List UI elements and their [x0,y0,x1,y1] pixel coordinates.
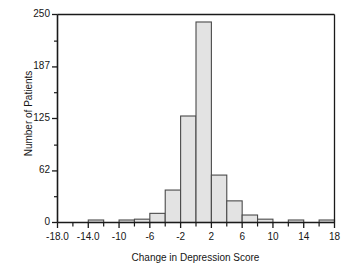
histogram-bar [242,215,257,222]
bars-group [88,22,334,223]
y-axis-title: Number of Patients [23,34,34,194]
histogram-bar [165,190,180,222]
histogram-bar [211,175,226,222]
histogram-bar [227,201,242,223]
y-axis-tick-label: 250 [18,8,50,19]
x-axis-tick-label: 18 [315,231,345,242]
histogram-figure: 062125187250 -18.0-14.0-10-6-226101418 N… [0,0,345,271]
histogram-bar [196,22,211,223]
x-axis-title: Change in Depression Score [57,252,334,263]
histogram-bar [150,213,165,222]
histogram-bar [181,116,196,222]
y-axis-tick-label: 0 [18,216,50,227]
